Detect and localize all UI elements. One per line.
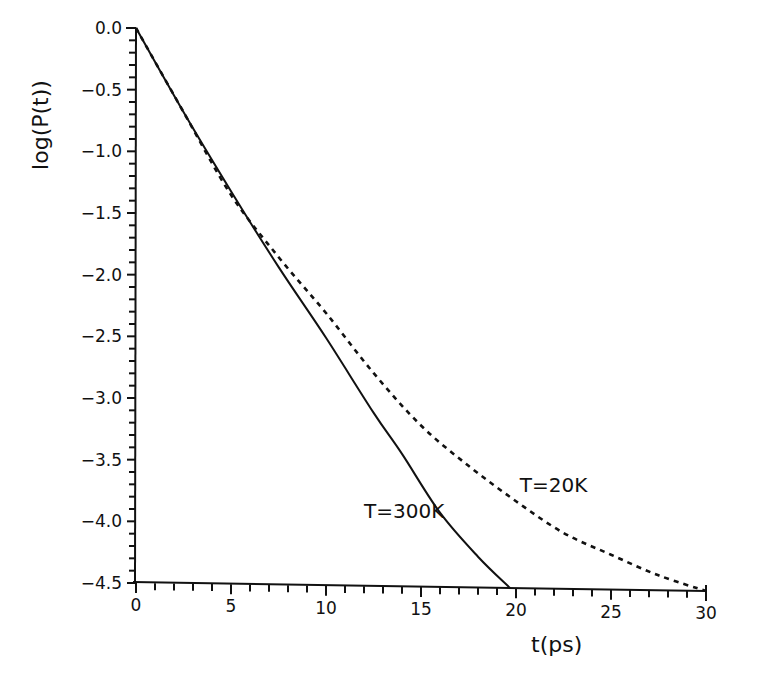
- series-t-300k: [136, 28, 510, 588]
- x-tick-label: 25: [600, 602, 622, 622]
- x-tick-label: 5: [226, 596, 237, 616]
- x-tick-label: 10: [315, 598, 337, 618]
- annotation-t-20k: T=20K: [519, 473, 588, 497]
- x-axis: 051015202530: [131, 582, 717, 623]
- y-tick-label: −1.5: [81, 203, 122, 223]
- y-tick-label: −3.5: [81, 450, 122, 470]
- y-tick-label: −0.5: [81, 80, 122, 100]
- x-tick-label: 15: [410, 599, 432, 619]
- y-axis-line: [135, 28, 136, 583]
- y-axis-title: log(P(t)): [28, 80, 53, 170]
- y-tick-label: −4.5: [81, 573, 122, 593]
- x-tick-label: 0: [131, 595, 142, 615]
- y-axis: 0.0−0.5−1.0−1.5−2.0−2.5−3.0−3.5−4.0−4.5: [81, 18, 136, 593]
- y-tick-label: −3.0: [81, 388, 122, 408]
- y-tick-label: 0.0: [95, 18, 122, 38]
- x-tick-label: 30: [695, 603, 717, 623]
- y-tick-label: −1.0: [81, 141, 122, 161]
- chart: 0.0−0.5−1.0−1.5−2.0−2.5−3.0−3.5−4.0−4.5 …: [0, 0, 759, 686]
- x-axis-title: t(ps): [531, 632, 582, 657]
- annotation-layer: T=300KT=20K: [363, 473, 588, 522]
- annotation-t-300k: T=300K: [363, 499, 445, 523]
- x-tick-label: 20: [505, 600, 527, 620]
- y-tick-label: −4.0: [81, 511, 122, 531]
- y-tick-label: −2.5: [81, 326, 122, 346]
- x-axis-line: [133, 582, 706, 591]
- y-tick-label: −2.0: [81, 265, 122, 285]
